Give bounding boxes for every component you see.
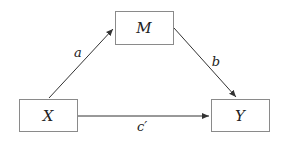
node-m: M bbox=[116, 12, 174, 45]
edge-b-arrow bbox=[174, 28, 236, 97]
mediation-diagram: M X Y a b c′ bbox=[0, 0, 287, 143]
edge-c-prime-label: c′ bbox=[137, 119, 147, 134]
node-x: X bbox=[20, 100, 78, 132]
node-m-label: M bbox=[135, 19, 152, 37]
edge-a-label: a bbox=[74, 45, 82, 60]
node-x-label: X bbox=[42, 107, 55, 125]
edge-b-label: b bbox=[212, 54, 220, 69]
edge-a-arrow bbox=[49, 29, 113, 98]
node-y: Y bbox=[212, 100, 270, 132]
